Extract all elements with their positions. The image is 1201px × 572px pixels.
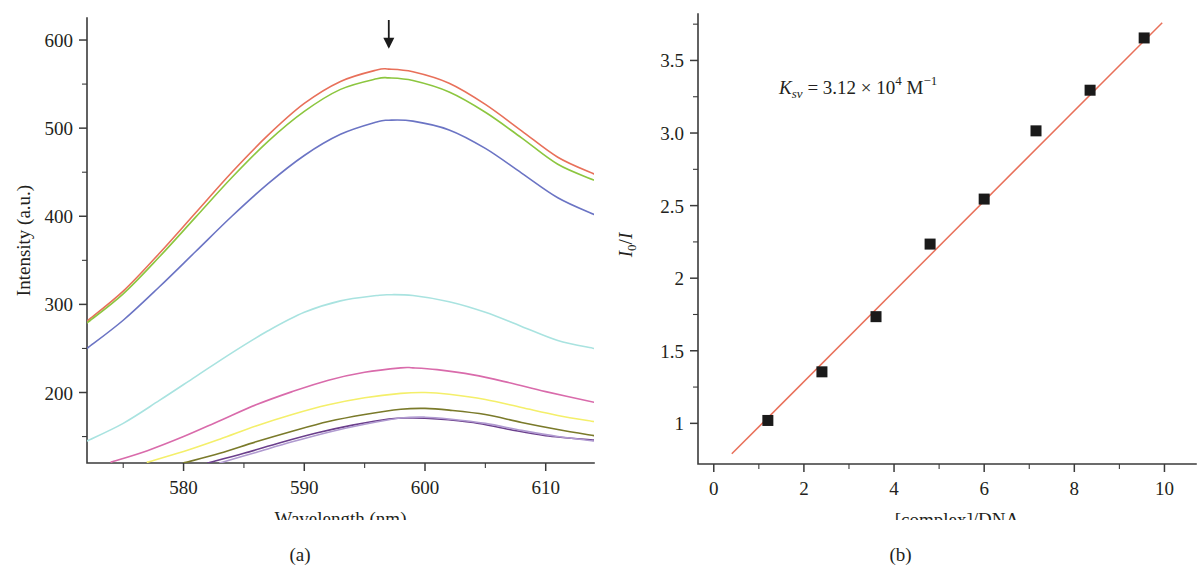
data-point-8 xyxy=(1139,32,1150,43)
x-tick-label: 10 xyxy=(1155,478,1174,499)
panel-b-x-axis-title: [complex]/DNA xyxy=(895,509,1020,520)
data-point-4 xyxy=(925,239,936,250)
y-tick-label: 600 xyxy=(45,30,74,51)
axis-lines xyxy=(87,18,594,463)
spectrum-curve-9-lavender xyxy=(220,417,594,463)
spectrum-curve-6-yellow xyxy=(147,392,594,462)
y-tick-label: 3.5 xyxy=(660,50,684,71)
panel-a-x-axis-title: Wavelength (nm) xyxy=(275,508,407,520)
spectrum-curve-3-blue xyxy=(87,120,594,348)
data-point-3 xyxy=(871,311,882,322)
data-point-7 xyxy=(1085,85,1096,96)
y-tick-label: 400 xyxy=(45,206,74,227)
figure-container: 200300400500600580590600610Wavelength (n… xyxy=(0,0,1201,572)
panel-a-caption: (a) xyxy=(0,544,600,566)
panel-b-plot: 11.522.53.03.50246810[complex]/DNAI0/IKs… xyxy=(600,0,1201,520)
data-point-1 xyxy=(762,415,773,426)
panel-a-y-ticks: 200300400500600 xyxy=(45,30,88,437)
x-tick-label: 600 xyxy=(411,477,440,498)
x-tick-label: 590 xyxy=(290,477,319,498)
ksv-annotation: Ksv = 3.12 × 104 M−1 xyxy=(778,73,937,101)
panel-a-emission-spectra: 200300400500600580590600610Wavelength (n… xyxy=(0,0,600,572)
x-tick-label: 0 xyxy=(709,478,719,499)
data-point-6 xyxy=(1031,125,1042,136)
ksv-part-4: M xyxy=(902,77,924,98)
ksv-part-1: sv xyxy=(792,86,803,101)
ksv-part-2: = 3.12 × 10 xyxy=(803,77,896,98)
x-tick-label: 2 xyxy=(799,478,809,499)
spectrum-curve-2-green xyxy=(87,78,594,323)
x-tick-label: 4 xyxy=(889,478,899,499)
y-tick-label: 2.5 xyxy=(660,196,684,217)
y-tick-label: 1 xyxy=(675,413,685,434)
panel-a-series-group xyxy=(87,69,594,463)
panel-b-y-ticks: 11.522.53.03.5 xyxy=(660,24,698,434)
panel-b-x-ticks: 0246810 xyxy=(709,464,1174,499)
panel-b-y-axis-title-text: I0/I xyxy=(615,231,639,258)
y-tick-label: 3.0 xyxy=(660,123,684,144)
y-label-I: I xyxy=(615,231,636,240)
y-tick-label: 200 xyxy=(45,383,74,404)
y-tick-label: 300 xyxy=(45,294,74,315)
panel-a-x-ticks: 580590600610 xyxy=(123,463,560,498)
y-tick-label: 500 xyxy=(45,118,74,139)
x-tick-label: 6 xyxy=(979,478,989,499)
x-tick-label: 8 xyxy=(1070,478,1080,499)
panel-a-axes xyxy=(87,18,594,463)
spectrum-curve-5-magenta xyxy=(111,367,594,462)
y-tick-label: 1.5 xyxy=(660,341,684,362)
panel-b-y-axis-title: I0/I xyxy=(615,231,639,258)
ksv-part-5: −1 xyxy=(923,73,937,88)
panel-b-caption: (b) xyxy=(600,544,1201,566)
panel-a-plot: 200300400500600580590600610Wavelength (n… xyxy=(0,0,600,520)
y-tick-label: 2 xyxy=(675,268,685,289)
panel-a-y-axis-title: Intensity (a.u.) xyxy=(13,185,35,296)
x-tick-label: 610 xyxy=(531,477,560,498)
panel-b-stern-volmer-plot: 11.522.53.03.50246810[complex]/DNAI0/IKs… xyxy=(600,0,1201,572)
arrow-head xyxy=(383,38,394,49)
data-point-5 xyxy=(979,194,990,205)
data-point-2 xyxy=(816,366,827,377)
x-tick-label: 580 xyxy=(169,477,198,498)
downward-arrow-icon xyxy=(383,20,394,49)
